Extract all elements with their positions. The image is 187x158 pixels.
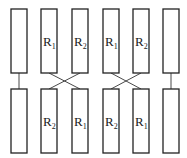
chromosome-crossover-diagram: R1 R2 R1 R2 R2 R1 R2 R1 — [0, 0, 187, 158]
bottom-row: R2 R1 R2 R1 — [11, 89, 179, 153]
bottom-block-a — [11, 89, 27, 153]
top-row: R1 R2 R1 R2 — [11, 9, 179, 73]
top-block-f — [163, 9, 179, 73]
connections — [19, 73, 171, 89]
top-block-a — [11, 9, 27, 73]
bottom-block-f — [163, 89, 179, 153]
